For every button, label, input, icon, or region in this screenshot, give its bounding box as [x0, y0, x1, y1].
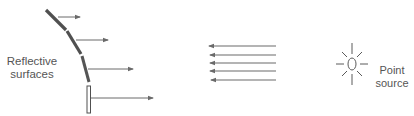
parallel-rays	[209, 46, 276, 80]
label-line: source	[370, 77, 414, 90]
reflective-surfaces-label: Reflective surfaces	[0, 55, 64, 81]
mirror-segment-2	[67, 31, 81, 54]
reflected-rays	[58, 17, 153, 98]
light-bulb-icon	[336, 43, 368, 85]
mirror-segment-3	[82, 56, 89, 82]
mirror-segment-4	[87, 86, 91, 113]
mirror-segment-1	[46, 10, 66, 30]
point-source-label: Point source	[370, 64, 414, 90]
label-line: surfaces	[0, 68, 64, 81]
label-line: Reflective	[0, 55, 64, 68]
label-line: Point	[370, 64, 414, 77]
